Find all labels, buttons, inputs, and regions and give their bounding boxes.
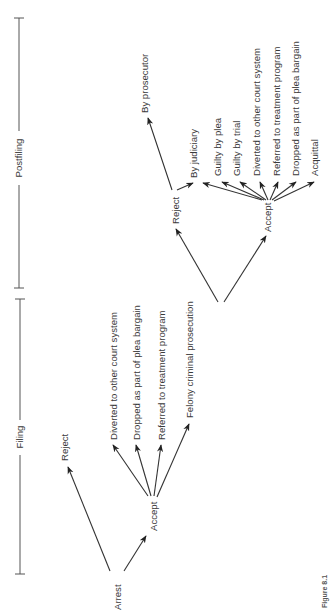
post-reject-by-prosecutor: By prosecutor <box>139 53 150 113</box>
phase-label-filing: Filing <box>14 426 25 449</box>
filing-outcome-felony: Felony criminal prosecution <box>184 301 195 418</box>
post-reject-by-judiciary: By judiciary <box>188 129 199 178</box>
node-post-reject: Reject <box>170 196 181 224</box>
figure-label: Figure 8.1 <box>321 575 329 608</box>
node-post-accept: Accept <box>262 202 273 232</box>
edges-filing-accept <box>113 424 189 497</box>
edges-arrest <box>68 467 146 571</box>
edges-post-reject <box>148 118 193 190</box>
filing-outcome-referred: Referred to treatment program <box>156 310 167 440</box>
edges-felony <box>176 229 266 302</box>
post-accept-referred: Referred to treatment program <box>271 46 282 176</box>
filing-outcome-dropped: Dropped as part of plea bargain <box>131 305 142 440</box>
post-accept-guilty-trial: Guilty by trial <box>231 121 242 176</box>
phase-label-postfiling: Postfiling <box>13 139 24 178</box>
case-flow-diagram: Postfiling Filing Arrest Reject Accept D… <box>0 0 334 613</box>
node-filing-accept: Accept <box>148 501 159 531</box>
post-accept-guilty-plea: Guilty by plea <box>212 117 223 176</box>
phase-bar-filing: Filing <box>14 299 25 574</box>
node-arrest: Arrest <box>112 584 123 610</box>
edges-post-accept <box>203 182 314 201</box>
phase-bar-postfiling: Postfiling <box>13 18 24 288</box>
post-accept-acquittal: Acquittal <box>309 139 320 176</box>
node-arrest-reject: Reject <box>59 433 70 461</box>
filing-outcome-diverted: Diverted to other court system <box>108 312 119 440</box>
post-accept-dropped: Dropped as part of plea bargain <box>290 41 301 176</box>
post-accept-diverted: Diverted to other court system <box>251 48 262 176</box>
